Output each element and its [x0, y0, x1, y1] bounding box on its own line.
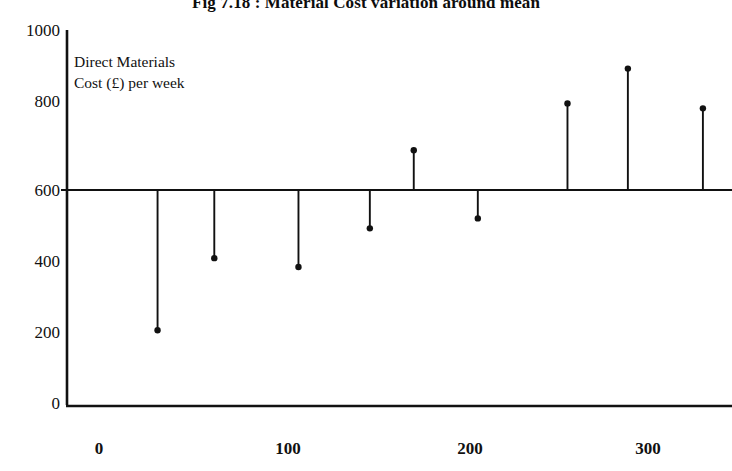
data-point-marker	[295, 264, 301, 270]
chart-page: Fig 7.18 : Material Cost variation aroun…	[0, 0, 732, 471]
data-point-marker	[625, 65, 631, 71]
annotation-line-1: Direct Materials	[74, 52, 185, 73]
data-point-marker	[411, 147, 417, 153]
data-point-marker	[367, 225, 373, 231]
data-stems	[158, 69, 703, 331]
data-point-marker	[154, 327, 160, 333]
data-point-marker	[564, 100, 570, 106]
plot-annotation: Direct Materials Cost (£) per week	[74, 52, 185, 94]
annotation-line-2: Cost (£) per week	[74, 73, 185, 94]
data-point-marker	[211, 255, 217, 261]
data-point-marker	[475, 215, 481, 221]
data-points	[154, 65, 706, 333]
data-point-marker	[700, 105, 706, 111]
